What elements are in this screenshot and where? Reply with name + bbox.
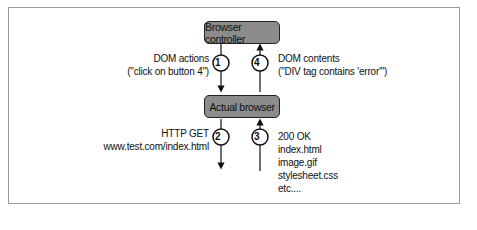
actual-browser-node: Actual browser: [204, 95, 280, 118]
step-3-line: etc....: [278, 182, 338, 195]
step-1-label-line2: ("click on button 4"): [127, 65, 209, 78]
step-number-2: 2: [215, 130, 220, 143]
step-number-3: 3: [254, 130, 259, 143]
step-3-line: index.html: [278, 143, 338, 156]
step-1-label: DOM actions ("click on button 4"): [127, 52, 209, 78]
step-3-line: image.gif: [278, 156, 338, 169]
node-label: Actual browser: [209, 101, 274, 113]
step-3-line: 200 OK: [278, 130, 338, 143]
step-4-label: DOM contents ("DIV tag contains 'error'"…: [278, 52, 387, 78]
step-number-1: 1: [215, 56, 220, 69]
step-2-label-line1: HTTP GET: [104, 127, 209, 140]
step-4-label-line1: DOM contents: [278, 52, 387, 65]
step-number-4: 4: [254, 56, 259, 69]
step-2-label: HTTP GET www.test.com/index.html: [104, 127, 209, 153]
step-4-label-line2: ("DIV tag contains 'error'"): [278, 65, 387, 78]
step-2-label-line2: www.test.com/index.html: [104, 140, 209, 153]
step-3-line: stylesheet.css: [278, 169, 338, 182]
node-label: Browser controller: [205, 21, 279, 45]
step-3-label: 200 OK index.html image.gif stylesheet.c…: [278, 130, 338, 195]
step-1-label-line1: DOM actions: [127, 52, 209, 65]
browser-controller-node: Browser controller: [204, 21, 280, 44]
